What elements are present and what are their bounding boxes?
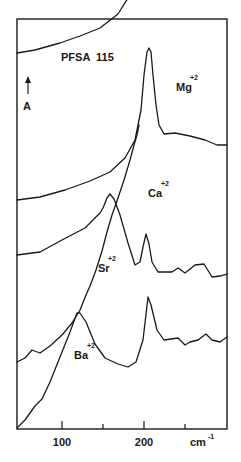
label-sr: Sr — [98, 262, 110, 274]
y-axis-label: A — [23, 100, 31, 112]
series-mg — [17, 0, 227, 53]
x-axis-units-sup: -1 — [208, 433, 214, 440]
x-axis-units: cm — [190, 436, 206, 448]
chart-title: PFSA 115 — [61, 51, 114, 63]
label-ba-sup: +2 — [87, 342, 95, 349]
label-mg: Mg — [176, 81, 192, 93]
spectrum-chart: 100 200 cm -1 PFSA 115 A Mg +2 Ca +2 Sr … — [0, 0, 241, 462]
label-mg-sup: +2 — [190, 74, 198, 81]
series-ca-rise — [17, 125, 139, 362]
series-ca — [17, 48, 227, 200]
series-sr — [17, 194, 227, 277]
arrow-head-icon — [25, 76, 31, 83]
x-tick-label-100: 100 — [53, 436, 71, 448]
label-ca: Ca — [148, 187, 163, 199]
label-sr-sup: +2 — [108, 255, 116, 262]
label-ba: Ba — [74, 349, 89, 361]
series-ba — [17, 297, 227, 428]
x-tick-label-200: 200 — [135, 436, 153, 448]
label-ca-sup: +2 — [161, 180, 169, 187]
